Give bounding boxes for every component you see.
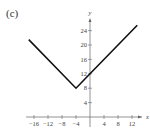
y-tick-label: 4 <box>84 99 88 106</box>
y-tick-label: 16 <box>81 56 88 63</box>
y-axis-arrow-icon <box>89 18 92 22</box>
y-tick-label: 20 <box>81 41 88 48</box>
y-tick-label: 8 <box>84 84 87 91</box>
x-tick-label: −12 <box>43 120 53 127</box>
x-axis-arrow-icon <box>138 116 142 119</box>
x-tick-label: −8 <box>59 120 66 127</box>
x-tick-label: −4 <box>73 120 81 127</box>
x-tick-label: 8 <box>116 120 119 127</box>
x-axis-label: x <box>145 113 149 120</box>
y-axis-label: y <box>88 9 92 16</box>
x-tick-label: 12 <box>129 120 136 127</box>
y-tick-label: 12 <box>81 70 88 77</box>
x-tick-label: 4 <box>102 120 106 127</box>
x-tick-label: −16 <box>29 120 40 127</box>
y-tick-label: 24 <box>81 27 88 34</box>
v-shaped-line-chart: xy−16−12−8−448124812162024 <box>0 0 150 129</box>
